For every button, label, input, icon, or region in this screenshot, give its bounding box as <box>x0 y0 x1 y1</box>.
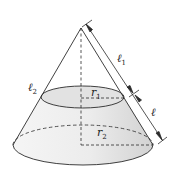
label-l2: ℓ2 <box>28 81 37 96</box>
frustum-diagram: ℓ1 ℓ2 ℓ r1 r2 <box>0 0 177 171</box>
label-l1: ℓ1 <box>117 52 126 67</box>
label-l: ℓ <box>151 106 156 119</box>
top-ellipse <box>41 86 124 108</box>
